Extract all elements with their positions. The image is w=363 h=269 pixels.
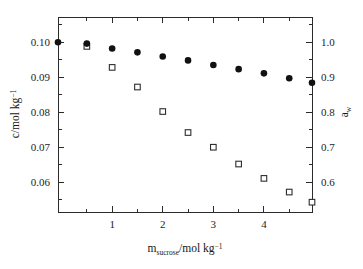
y-left-tick-label: 0.06 [31,176,51,188]
data-point-open-square [211,144,217,150]
y-left-tick-label: 0.08 [31,106,51,118]
data-point-open-square [309,199,315,205]
data-point-filled-circle [235,66,242,73]
figure-container: 1234 0.060.070.080.090.10 0.60.70.80.91.… [0,0,363,269]
y-right-tick-label: 0.8 [321,106,335,118]
x-tick-label: 3 [211,218,217,230]
data-point-filled-circle [286,75,293,82]
data-point-open-square [261,176,267,182]
data-point-open-square [160,109,166,115]
x-tick-label: 2 [160,218,166,230]
plot-background [0,0,363,269]
y-right-tick-label: 1.0 [321,36,335,48]
data-point-filled-circle [109,45,116,52]
data-point-filled-circle [159,53,166,60]
x-tick-label: 1 [109,218,115,230]
data-point-filled-circle [185,57,192,64]
data-point-filled-circle [210,62,217,69]
data-point-filled-circle [134,49,141,56]
data-point-open-square [236,161,242,167]
y-right-tick-label: 0.9 [321,71,335,83]
y-left-tick-label: 0.07 [31,141,51,153]
data-point-open-square [185,130,191,136]
data-point-filled-circle [261,70,268,77]
y-left-tick-label: 0.09 [31,71,51,83]
data-point-open-square [109,65,115,71]
x-tick-label: 4 [261,218,267,230]
y-right-tick-label: 0.7 [321,141,335,153]
data-point-filled-circle [55,39,62,46]
data-point-open-square [286,189,292,195]
y-right-tick-label: 0.6 [321,176,335,188]
data-point-open-square [135,84,141,90]
scatter-plot: 1234 0.060.070.080.090.10 0.60.70.80.91.… [0,0,363,269]
data-point-filled-circle [84,40,91,47]
data-point-filled-circle [309,80,316,87]
y-left-tick-label: 0.10 [31,36,51,48]
